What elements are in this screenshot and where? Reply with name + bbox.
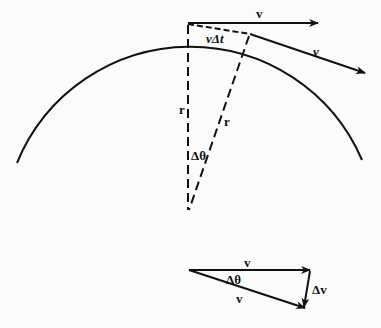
triangle-velocity-label-bottom: v (236, 291, 243, 306)
chord-label: vΔt (206, 31, 224, 46)
triangle-delta-v-label: Δv (312, 282, 327, 297)
circular-motion-diagram: v v vΔt r r Δθ v Δθ v Δv (0, 0, 381, 328)
radius-label-slanted: r (224, 114, 230, 129)
triangle-velocity-bottom (189, 270, 305, 308)
triangle-velocity-label-top: v (244, 255, 251, 270)
velocity-vector-tilted (250, 34, 365, 73)
angle-label-center: Δθ (191, 148, 206, 163)
radius-label-vertical: r (179, 102, 185, 117)
circular-path-arc (17, 47, 362, 163)
radius-slanted-dashed (189, 36, 249, 210)
triangle-delta-v-vector (304, 271, 310, 307)
velocity-label-top: v (256, 6, 263, 21)
velocity-triangle: v Δθ v Δv (189, 255, 327, 308)
triangle-angle-label: Δθ (226, 272, 241, 287)
velocity-label-tilted: v (313, 44, 319, 59)
